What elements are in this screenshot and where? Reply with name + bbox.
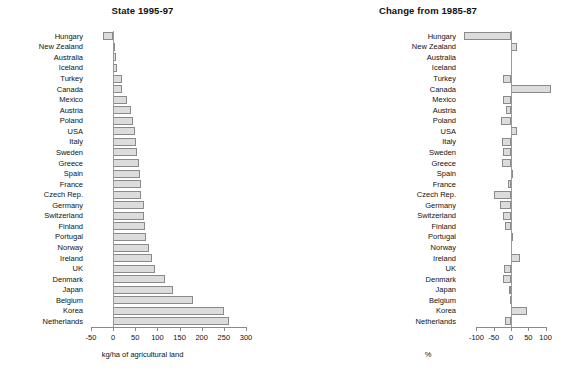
category-label-right-germany: Germany: [285, 200, 460, 211]
bar-row: [91, 147, 246, 158]
x-tick-label: 300: [229, 333, 263, 342]
bar-korea: [511, 307, 527, 315]
category-label-left-spain: Spain: [0, 168, 87, 179]
category-label-right-canada: Canada: [285, 84, 460, 95]
bar-row: [464, 316, 556, 327]
bar-row: [91, 232, 246, 243]
x-tick: [476, 327, 477, 331]
bar-row: [464, 189, 556, 200]
category-label-left-switzerland: Switzerland: [0, 211, 87, 222]
bar-row: [91, 73, 246, 84]
bar-canada: [511, 85, 551, 93]
bar-korea: [113, 307, 224, 315]
bar-uk: [504, 265, 511, 273]
bar-row: [91, 221, 246, 232]
x-tick: [494, 327, 495, 331]
bar-sweden: [113, 148, 136, 156]
bar-sweden: [503, 148, 511, 156]
bars-left: [91, 31, 246, 327]
category-label-left-belgium: Belgium: [0, 295, 87, 306]
x-tick: [180, 327, 181, 331]
category-label-left-turkey: Turkey: [0, 73, 87, 84]
category-label-left-japan: Japan: [0, 285, 87, 296]
bar-row: [91, 200, 246, 211]
bar-greece: [502, 159, 511, 167]
x-axis-left: [91, 327, 246, 328]
category-label-right-italy: Italy: [285, 137, 460, 148]
bar-turkey: [113, 75, 122, 83]
bar-germany: [500, 201, 511, 209]
category-label-left-france: France: [0, 179, 87, 190]
bar-switzerland: [503, 212, 511, 220]
category-label-right-australia: Australia: [285, 52, 460, 63]
chart-title-right: Change from 1985-87: [285, 5, 571, 16]
bar-uk: [113, 265, 155, 273]
bar-denmark: [503, 275, 511, 283]
x-tick: [511, 327, 512, 331]
bar-hungary: [464, 32, 511, 40]
bar-italy: [502, 138, 511, 146]
category-label-right-japan: Japan: [285, 285, 460, 296]
category-label-left-mexico: Mexico: [0, 94, 87, 105]
bar-row: [464, 221, 556, 232]
bar-finland: [113, 222, 145, 230]
category-label-right-austria: Austria: [285, 105, 460, 116]
category-label-left-poland: Poland: [0, 116, 87, 127]
bar-canada: [113, 85, 122, 93]
bar-row: [91, 242, 246, 253]
category-label-right-denmark: Denmark: [285, 274, 460, 285]
category-axis-left: HungaryNew ZealandAustraliaIcelandTurkey…: [0, 31, 87, 327]
bar-mexico: [113, 96, 127, 104]
bar-row: [464, 116, 556, 127]
category-label-right-france: France: [285, 179, 460, 190]
bar-spain: [113, 170, 140, 178]
bar-row: [91, 42, 246, 53]
bar-row: [91, 126, 246, 137]
plot-area-right: [464, 31, 556, 327]
bar-turkey: [503, 75, 511, 83]
x-tick: [224, 327, 225, 331]
x-tick: [202, 327, 203, 331]
category-label-left-greece: Greece: [0, 158, 87, 169]
bar-germany: [113, 201, 144, 209]
category-label-right-hungary: Hungary: [285, 31, 460, 42]
bar-row: [464, 147, 556, 158]
category-label-right-sweden: Sweden: [285, 147, 460, 158]
plot-area-left: [91, 31, 246, 327]
category-axis-right: HungaryNew ZealandAustraliaIcelandTurkey…: [285, 31, 460, 327]
bar-row: [464, 52, 556, 63]
bar-row: [464, 42, 556, 53]
category-label-right-netherlands: Netherlands: [285, 316, 460, 327]
category-label-left-portugal: Portugal: [0, 232, 87, 243]
category-label-left-denmark: Denmark: [0, 274, 87, 285]
category-label-left-finland: Finland: [0, 221, 87, 232]
bar-row: [464, 274, 556, 285]
bar-row: [91, 116, 246, 127]
bar-ireland: [113, 254, 152, 262]
zero-reference-line: [511, 31, 512, 327]
bar-france: [113, 180, 140, 188]
category-label-left-norway: Norway: [0, 242, 87, 253]
category-label-right-mexico: Mexico: [285, 94, 460, 105]
bar-row: [464, 63, 556, 74]
bar-row: [91, 52, 246, 63]
chart-title-left: State 1995-97: [0, 5, 285, 16]
bar-row: [464, 94, 556, 105]
bar-row: [464, 158, 556, 169]
bar-row: [91, 105, 246, 116]
bar-netherlands: [113, 317, 229, 325]
category-label-right-spain: Spain: [285, 168, 460, 179]
category-label-right-switzerland: Switzerland: [285, 211, 460, 222]
category-label-right-new-zealand: New Zealand: [285, 42, 460, 53]
x-tick: [246, 327, 247, 331]
bar-row: [464, 200, 556, 211]
category-label-right-belgium: Belgium: [285, 295, 460, 306]
category-label-right-czech-rep: Czech Rep.: [285, 189, 460, 200]
bar-poland: [501, 117, 511, 125]
bar-row: [91, 179, 246, 190]
category-label-left-netherlands: Netherlands: [0, 316, 87, 327]
category-label-left-korea: Korea: [0, 306, 87, 317]
bar-row: [464, 31, 556, 42]
bar-row: [91, 274, 246, 285]
bar-row: [91, 158, 246, 169]
